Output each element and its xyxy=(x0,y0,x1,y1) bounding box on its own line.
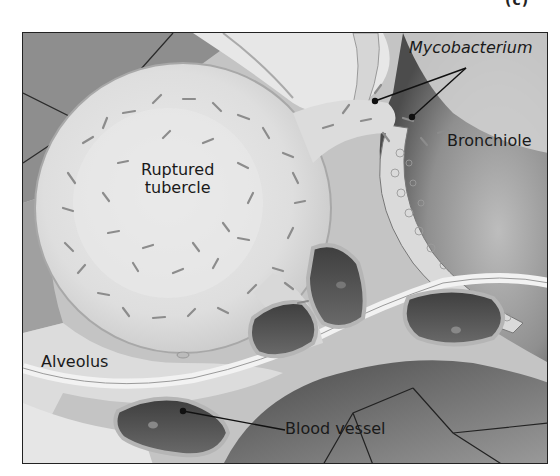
label-ruptured-tubercle: Ruptured tubercle xyxy=(141,161,214,196)
panel-label: (c) xyxy=(505,0,529,8)
label-mycobacterium: Mycobacterium xyxy=(409,39,532,57)
label-blood-vessel: Blood vessel xyxy=(285,420,386,438)
label-ruptured-tubercle-line2: tubercle xyxy=(141,179,214,197)
illustration-frame: Mycobacterium Bronchiole Ruptured tuberc… xyxy=(22,32,548,464)
label-ruptured-tubercle-line1: Ruptured xyxy=(141,161,214,179)
lung-tissue-illustration xyxy=(23,33,548,464)
label-alveolus: Alveolus xyxy=(41,353,108,371)
label-bronchiole: Bronchiole xyxy=(447,132,532,150)
